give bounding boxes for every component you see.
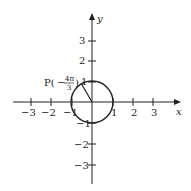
y-axis-label: y [96, 13, 103, 24]
y-axis-arrow-icon [89, 13, 95, 20]
x-axis-arrow-icon [174, 99, 181, 105]
y-tick-label: −1 [76, 118, 91, 129]
unit-circle-diagram: x y −3 −2 −1 1 2 3 3 2 1 −1 −2 −3 P( − 4… [0, 0, 191, 191]
y-tick-label: 3 [79, 35, 85, 46]
svg-text:P(: P( [44, 77, 55, 88]
y-tick-label: 2 [79, 55, 85, 66]
svg-text:): ) [75, 77, 79, 88]
x-tick-label: −1 [63, 107, 78, 118]
x-axis-label: x [176, 106, 182, 117]
x-tick-label: 2 [131, 107, 137, 118]
x-tick-label: −2 [41, 107, 56, 118]
y-tick-label: −2 [74, 139, 89, 150]
x-tick-label: −3 [21, 107, 36, 118]
svg-text:4π: 4π [65, 75, 74, 83]
svg-text:3: 3 [67, 84, 71, 92]
diagram-canvas: x y −3 −2 −1 1 2 3 3 2 1 −1 −2 −3 P( − 4… [0, 0, 191, 191]
y-tick-label: −3 [74, 160, 89, 171]
x-tick-label: 3 [151, 107, 157, 118]
point-p-label: P( − 4π 3 ) [44, 75, 79, 92]
